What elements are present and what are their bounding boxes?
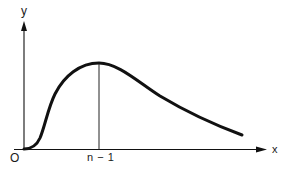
x-axis-arrow-icon (256, 147, 267, 153)
diagram-canvas (0, 0, 286, 174)
density-curve-diagram: y x O n − 1 (0, 0, 286, 174)
x-axis-label: x (272, 144, 278, 155)
y-axis-arrow-icon (21, 21, 27, 31)
origin-label: O (10, 152, 19, 164)
density-curve (24, 63, 242, 149)
y-axis-label: y (21, 5, 27, 17)
peak-label: n − 1 (87, 152, 114, 163)
